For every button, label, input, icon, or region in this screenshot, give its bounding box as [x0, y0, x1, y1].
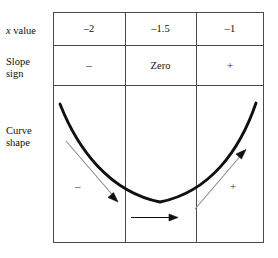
table-grid — [54, 13, 264, 243]
slope-sign-right-annotation: + — [230, 180, 236, 192]
slope-sign-left-annotation: – — [74, 180, 81, 192]
diagram-canvas: – + — [0, 0, 278, 258]
figure-root: x value Slope sign Curve shape –2 –1.5 –… — [0, 0, 278, 258]
parabola-curve — [60, 103, 256, 202]
table-outer-border — [54, 13, 264, 243]
tangent-arrow-left — [66, 141, 118, 202]
tangent-arrow-right — [195, 150, 246, 210]
tangent-arrow-middle — [131, 214, 178, 221]
